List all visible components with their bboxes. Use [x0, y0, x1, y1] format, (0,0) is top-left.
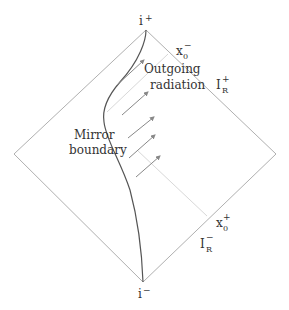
i-minus-label: i −: [138, 285, 151, 301]
mirror-label-line1: Mirror: [74, 128, 115, 142]
x0-plus-label: x 0 +: [216, 212, 231, 233]
scri-minus-sub: R: [206, 245, 213, 254]
radiation-arrow: [136, 156, 160, 177]
scri-plus-sub: R: [222, 86, 229, 95]
x0-plus-base: x: [216, 216, 223, 230]
i-plus-base: i: [139, 14, 143, 28]
outgoing-label-line2: radiation: [150, 78, 205, 92]
x0-minus-sub: 0: [183, 52, 188, 61]
x0-minus-base: x: [176, 44, 183, 58]
x0-plus-line: [137, 150, 207, 216]
x0-plus-sub: 0: [223, 224, 228, 233]
penrose-diagram: i + i − x 0 − x 0 + I R + I R − Outgoing…: [0, 0, 289, 310]
outgoing-label-line1: Outgoing: [144, 62, 201, 76]
x0-minus-label: x 0 −: [176, 40, 192, 61]
i-minus-base: i: [138, 287, 142, 301]
i-minus-sup: −: [143, 285, 151, 295]
x0-minus-sup: −: [184, 40, 192, 50]
radiation-arrow: [122, 92, 148, 115]
scri-minus-base: I: [200, 237, 205, 251]
scri-minus-label: I R −: [200, 232, 214, 254]
scri-minus-sup: −: [206, 232, 214, 242]
scri-plus-base: I: [216, 78, 221, 92]
i-plus-sup: +: [145, 13, 153, 23]
i-plus-label: i +: [139, 13, 153, 28]
x0-plus-sup: +: [223, 212, 231, 222]
radiation-arrow: [128, 117, 154, 138]
scri-plus-sup: +: [222, 74, 230, 84]
mirror-label-line2: boundary: [69, 143, 127, 157]
scri-plus-label: I R +: [216, 74, 230, 95]
